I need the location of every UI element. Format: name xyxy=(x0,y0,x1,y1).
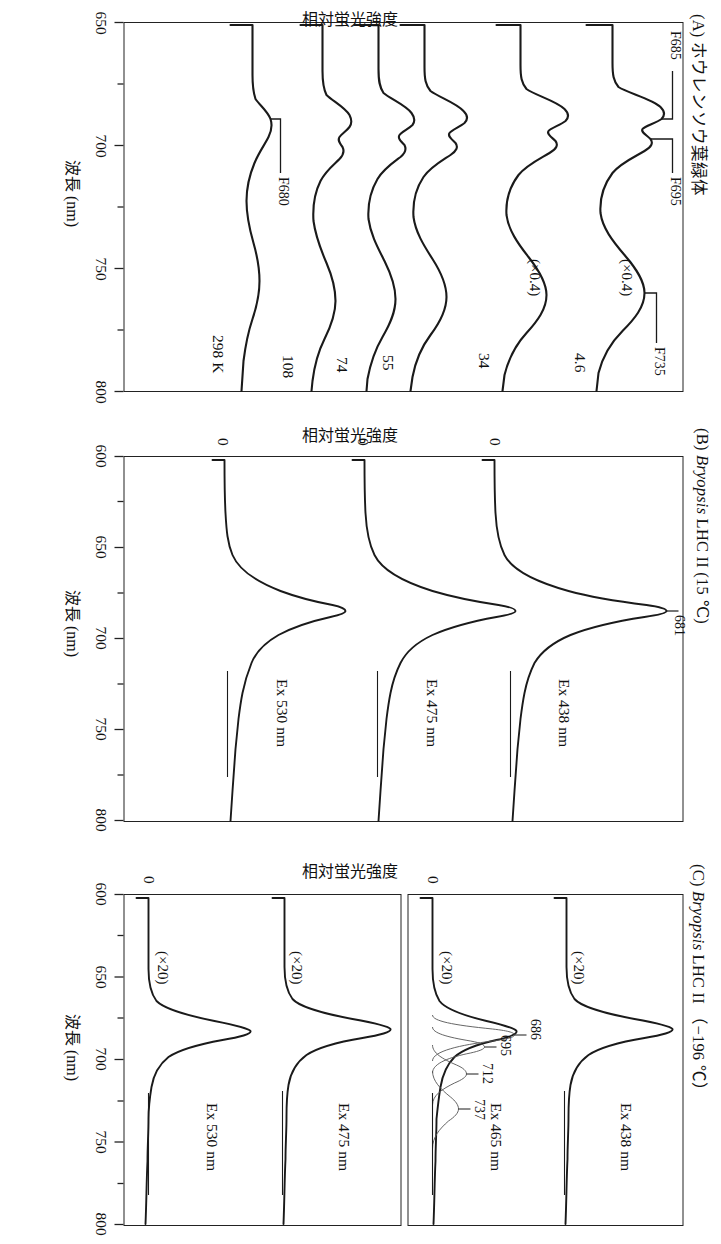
panel-b-xtick-750: 750 xyxy=(91,706,109,752)
panel-a-peak-label-f685: F685 xyxy=(666,31,682,60)
panel-a-peak-label-f735: F735 xyxy=(650,347,666,376)
panel-c-curve-label-ex530: Ex 530 nm xyxy=(202,1103,220,1171)
panel-b-curve-label-ex475: Ex 475 nm xyxy=(422,679,440,747)
panel-b-zero-label-3: 0 xyxy=(213,438,231,446)
panel-a-curve-label-34: 34 xyxy=(474,353,492,369)
panel-a-xtick-750: 750 xyxy=(91,246,109,292)
panel-c-title-italic: Bryopsis xyxy=(688,891,707,950)
panel-a-y-axis-title: 相対蛍光強度 xyxy=(301,6,397,30)
panel-b-curve-label-ex438: Ex 438 nm xyxy=(554,679,572,747)
panel-c-curves-top xyxy=(406,895,682,1227)
panel-b-curves xyxy=(122,457,682,823)
panel-b-x-axis-ticks xyxy=(111,456,123,824)
panel-c-xtick-750: 750 xyxy=(91,1119,109,1165)
panel-c-component-label-686: 686 xyxy=(526,1019,542,1040)
panel-b: (B) Bryopsis LHC II (15 ℃) xyxy=(0,404,721,844)
panel-c-x-axis-ticks xyxy=(111,894,123,1228)
panel-c-title-prefix: (C) xyxy=(688,864,707,891)
panel-a-scale-label-1: (×0.4) xyxy=(617,259,634,296)
panel-b-title: (B) Bryopsis LHC II (15 ℃) xyxy=(691,428,711,624)
panel-a-curves xyxy=(122,23,682,393)
panel-c-curve-label-ex465: Ex 465 nm xyxy=(486,1103,504,1171)
panel-a-scale-label-2: (×0.4) xyxy=(525,259,542,296)
panel-a-xtick-650: 650 xyxy=(91,0,109,46)
panel-c: (C) Bryopsis LHC II （−196 ℃） xyxy=(0,844,721,1244)
panel-c-plot-area-bottom: Ex 475 nm Ex 530 nm (×20) (×20) xyxy=(123,894,401,1226)
panel-b-xtick-700: 700 xyxy=(91,615,109,661)
panel-c-xtick-800: 800 xyxy=(91,1201,109,1244)
panel-a-plot-area: F685 F695 F680 F735 (×0.4) (×0.4) 4.6 34… xyxy=(123,22,683,392)
panel-c-curve-label-ex438: Ex 438 nm xyxy=(616,1103,634,1171)
panel-a-title-prefix: (A) xyxy=(688,14,707,42)
multi-panel-spectra-figure: (A) ホウレンソウ葉緑体 xyxy=(0,0,721,1244)
panel-c-scale-label-1: (×20) xyxy=(569,951,586,984)
panel-b-title-italic: Bryopsis xyxy=(692,455,711,514)
panel-b-xtick-650: 650 xyxy=(91,524,109,570)
panel-a-curve-label-108: 108 xyxy=(278,355,296,378)
panel-b-zero-label-1: 0 xyxy=(485,438,503,446)
panel-a-xtick-700: 700 xyxy=(91,123,109,169)
panel-c-x-axis-title: 波長 (nm) xyxy=(61,1014,85,1081)
panel-c-xtick-600: 600 xyxy=(91,871,109,917)
panel-a-curve-label-55: 55 xyxy=(378,355,396,371)
panel-c-plot-area-top: Ex 438 nm Ex 465 nm (×20) (×20) 686 695 … xyxy=(407,894,683,1226)
panel-b-xtick-600: 600 xyxy=(91,433,109,479)
panel-a-title-main: ホウレンソウ葉緑体 xyxy=(688,42,707,197)
panel-b-plot-area: 681 Ex 438 nm Ex 475 nm Ex 530 nm xyxy=(123,456,683,822)
panel-a-peak-label-f680: F680 xyxy=(274,177,290,206)
panel-b-peak-label-681: 681 xyxy=(670,615,686,636)
panel-c-curves-bottom xyxy=(122,895,400,1227)
panel-c-scale-label-2: (×20) xyxy=(437,951,454,984)
panel-c-title-rest: LHC II （−196 ℃） xyxy=(688,950,707,1099)
panel-a-x-axis-ticks xyxy=(111,22,123,394)
panel-c-xtick-700: 700 xyxy=(91,1036,109,1082)
panel-b-x-axis-title: 波長 (nm) xyxy=(61,590,85,657)
panel-a-curve-label-4-6: 4.6 xyxy=(570,353,588,372)
panel-c-xtick-650: 650 xyxy=(91,954,109,1000)
panel-c-title: (C) Bryopsis LHC II （−196 ℃） xyxy=(687,864,711,1099)
panel-a-x-axis-title: 波長 (nm) xyxy=(61,160,85,227)
panel-c-component-label-712: 712 xyxy=(478,1063,494,1084)
panel-b-y-axis-title: 相対蛍光強度 xyxy=(301,422,397,446)
panel-c-curve-label-ex475: Ex 475 nm xyxy=(334,1103,352,1171)
panel-c-zero-label-2: 0 xyxy=(139,876,157,884)
panel-c-y-axis-title: 相対蛍光強度 xyxy=(301,858,397,882)
figure-rotation-wrapper: (A) ホウレンソウ葉緑体 xyxy=(0,0,721,1244)
panel-a: (A) ホウレンソウ葉緑体 xyxy=(0,0,721,404)
panel-c-zero-label-1: 0 xyxy=(423,876,441,884)
panel-c-component-label-737: 737 xyxy=(470,1099,486,1120)
panel-b-xtick-800: 800 xyxy=(91,797,109,843)
panel-b-curve-label-ex530: Ex 530 nm xyxy=(272,679,290,747)
panel-b-title-prefix: (B) xyxy=(692,428,711,455)
panel-b-title-rest: LHC II (15 ℃) xyxy=(692,514,711,624)
panel-a-curve-label-298k: 298 K xyxy=(208,335,226,373)
panel-c-component-label-695: 695 xyxy=(496,1035,512,1056)
panel-c-scale-label-4: (×20) xyxy=(153,951,170,984)
panel-a-title: (A) ホウレンソウ葉緑体 xyxy=(687,14,711,197)
panel-c-scale-label-3: (×20) xyxy=(287,951,304,984)
panel-a-curve-label-74: 74 xyxy=(332,357,350,373)
panel-a-peak-label-f695: F695 xyxy=(666,177,682,206)
